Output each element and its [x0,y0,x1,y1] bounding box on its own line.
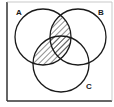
set-a-label: A [16,8,22,17]
venn-diagram: A B C [0,0,114,107]
set-c-label: C [86,82,92,91]
shaded-region [33,9,106,92]
set-b-label: B [98,8,104,17]
